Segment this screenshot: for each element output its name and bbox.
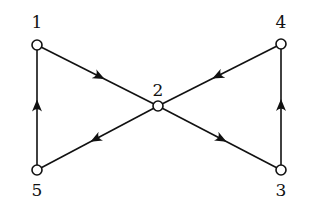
- node-5: [32, 165, 42, 175]
- node-1: [32, 40, 42, 50]
- graph-canvas: 12345: [0, 0, 309, 211]
- edge-2-to-5: [37, 106, 158, 170]
- node-3: [276, 165, 286, 175]
- edge-4-to-2: [158, 44, 281, 106]
- node-2: [153, 101, 163, 111]
- node-label-2: 2: [153, 80, 164, 100]
- node-label-1: 1: [32, 12, 43, 32]
- nodes-group: [32, 39, 286, 175]
- edge-2-to-3: [158, 106, 281, 170]
- node-label-4: 4: [276, 12, 287, 32]
- node-label-3: 3: [276, 180, 287, 200]
- node-4: [276, 39, 286, 49]
- node-label-5: 5: [32, 180, 43, 200]
- edge-1-to-2: [37, 45, 158, 106]
